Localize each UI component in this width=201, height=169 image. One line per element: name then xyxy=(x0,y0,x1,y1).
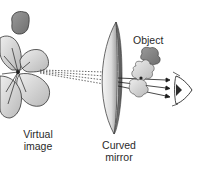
curved-mirror-diagram: Object Virtual image Curved mirror xyxy=(0,0,201,169)
virtual-image-flower xyxy=(0,11,50,118)
object-label: Object xyxy=(133,34,163,46)
virtual-image-label: Virtual image xyxy=(18,128,58,152)
object-flower xyxy=(129,47,160,97)
virtual-image-label-line2: image xyxy=(18,140,58,152)
curved-mirror-label-line1: Curved xyxy=(98,139,140,151)
eye-icon xyxy=(172,72,192,106)
curved-mirror-label: Curved mirror xyxy=(98,139,140,163)
dashed-sight-lines xyxy=(40,70,104,84)
virtual-image-label-line1: Virtual xyxy=(18,128,58,140)
curved-mirror-label-line2: mirror xyxy=(98,151,140,163)
